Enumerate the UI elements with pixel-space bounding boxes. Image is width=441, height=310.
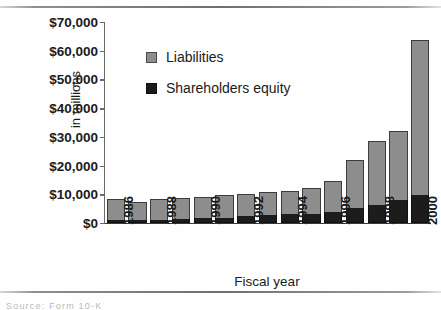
x-tick-label-1988: 1988 — [164, 196, 179, 225]
x-tick-label-1986: 1986 — [121, 196, 136, 225]
y-axis-tick-mark — [100, 51, 105, 52]
y-axis-tick-mark — [100, 137, 105, 138]
y-axis-tick-labels: $0$10,000$20,000$30,000$40,000$50,000$60… — [8, 8, 98, 290]
legend-label-liabilities: Liabilities — [166, 49, 224, 65]
y-tick-label: $60,000 — [49, 43, 98, 58]
x-tick-label-1990: 1990 — [208, 196, 223, 225]
y-tick-label: $30,000 — [49, 129, 98, 144]
y-tick-label: $10,000 — [49, 187, 98, 202]
x-tick-label-1998: 1998 — [382, 196, 397, 225]
page-rule-bottom — [0, 291, 441, 293]
y-tick-label: $0 — [83, 216, 98, 231]
legend-swatch-liabilities-icon — [146, 52, 157, 63]
y-axis-tick-mark — [100, 108, 105, 109]
x-axis-tick-labels: 19861988199019921994199619982000 — [104, 225, 430, 273]
x-tick-label-1992: 1992 — [251, 196, 266, 225]
x-tick-label-1996: 1996 — [338, 196, 353, 225]
x-axis-title: Fiscal year — [104, 274, 430, 289]
y-tick-label: $20,000 — [49, 158, 98, 173]
legend-item-liabilities: Liabilities — [146, 46, 291, 68]
source-note: Source: Form 10-K — [6, 301, 436, 310]
x-tick-label-1994: 1994 — [295, 196, 310, 225]
bar-segment-liabilities — [389, 131, 407, 200]
legend-swatch-equity-icon — [146, 83, 157, 94]
y-axis-tick-mark — [100, 22, 105, 23]
y-axis-tick-mark — [100, 194, 105, 195]
y-axis-tick-mark — [100, 79, 105, 80]
chart-legend: Liabilities Shareholders equity — [146, 46, 291, 108]
legend-label-shareholders-equity: Shareholders equity — [166, 80, 291, 96]
bar-segment-liabilities — [411, 40, 429, 195]
stacked-bar-chart: in millions $0$10,000$20,000$30,000$40,0… — [0, 8, 441, 290]
y-tick-label: $70,000 — [49, 15, 98, 30]
y-tick-label: $50,000 — [49, 72, 98, 87]
legend-item-shareholders-equity: Shareholders equity — [146, 77, 291, 99]
y-tick-label: $40,000 — [49, 101, 98, 116]
x-tick-label-2000: 2000 — [425, 196, 440, 225]
y-axis-tick-mark — [100, 166, 105, 167]
